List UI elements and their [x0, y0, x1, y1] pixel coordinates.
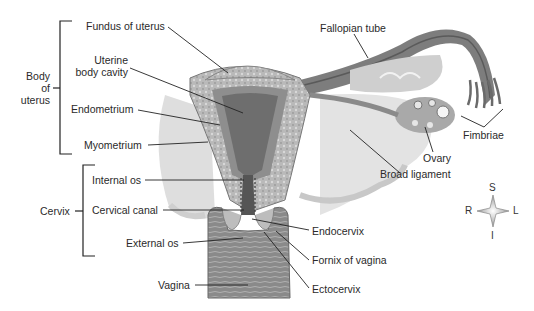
label-ectocervix: Ectocervix	[312, 283, 360, 295]
label-endocervix: Endocervix	[312, 225, 364, 237]
group-label-line: uterus	[12, 94, 50, 106]
label-endometrium: Endometrium	[71, 103, 133, 115]
fundus-shape	[205, 66, 295, 80]
uterus-illustration	[0, 0, 534, 311]
compass-rose-icon	[477, 195, 509, 227]
label-myometrium: Myometrium	[84, 139, 142, 151]
cervical-canal-shape	[241, 175, 255, 215]
label-fimbriae: Fimbriae	[463, 129, 504, 141]
label-fornix-of-vagina: Fornix of vagina	[312, 254, 387, 266]
group-label-line: Body	[12, 70, 50, 82]
compass-superior: S	[489, 182, 496, 193]
label-vagina: Vagina	[158, 279, 190, 291]
cervix-group-label: Cervix	[40, 205, 70, 217]
label-fallopian-tube: Fallopian tube	[320, 22, 386, 34]
compass-right: R	[465, 205, 472, 216]
compass-inferior: I	[491, 230, 494, 241]
label-ovary: Ovary	[423, 152, 451, 164]
compass-left: L	[513, 205, 519, 216]
body-bracket	[60, 21, 72, 154]
label-internal-os: Internal os	[92, 174, 141, 186]
anatomy-diagram: Body of uterus Cervix Fundus of uterus U…	[0, 0, 534, 311]
vagina-shape	[208, 207, 290, 298]
label-broad-ligament: Broad ligament	[380, 168, 451, 180]
label-fundus-of-uterus: Fundus of uterus	[86, 20, 165, 32]
label-cervical-canal: Cervical canal	[92, 204, 158, 216]
label-uterine-body-cavity: Uterine body cavity	[70, 54, 128, 78]
body-of-uterus-group-label: Body of uterus	[12, 70, 50, 106]
label-line: Uterine	[70, 54, 128, 66]
label-line: body cavity	[70, 66, 128, 78]
group-label-line: of	[12, 82, 50, 94]
label-external-os: External os	[126, 237, 179, 249]
